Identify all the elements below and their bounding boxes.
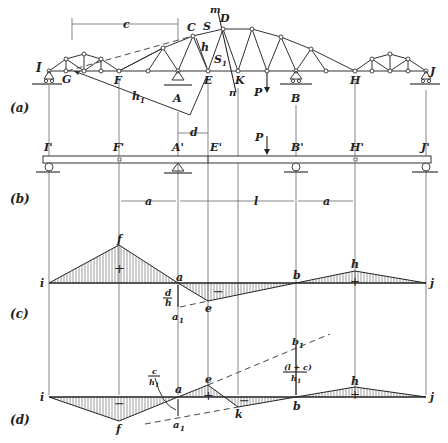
svg-text:a: a — [145, 195, 152, 208]
svg-text:(d): (d) — [10, 413, 30, 427]
svg-text:−: − — [239, 393, 250, 408]
svg-text:f: f — [115, 423, 123, 436]
il-S1-labels: i f a e k b h j a 1 b 1 c h 1 (l + c) h … — [10, 336, 434, 436]
svg-text:l: l — [254, 195, 258, 208]
influence-line-S-panel-c — [49, 245, 426, 307]
svg-text:I: I — [35, 61, 42, 75]
svg-text:a: a — [175, 383, 182, 396]
svg-text:A': A' — [171, 141, 184, 154]
svg-text:E: E — [203, 74, 213, 87]
roller-I — [45, 163, 53, 171]
svg-text:P: P — [254, 131, 264, 144]
svg-text:1: 1 — [180, 424, 185, 433]
svg-text:(l + c): (l + c) — [284, 362, 312, 372]
svg-text:j: j — [428, 391, 434, 404]
truss-panel-a — [32, 12, 440, 133]
svg-text:h: h — [201, 41, 209, 54]
svg-text:B: B — [290, 92, 300, 105]
beam-labels: I' F' A' E' P B' H' J' a l a (b) — [10, 131, 430, 208]
svg-text:1: 1 — [297, 377, 301, 384]
svg-text:(a): (a) — [10, 101, 29, 115]
roller-B — [292, 163, 300, 171]
svg-text:b: b — [293, 269, 301, 282]
svg-text:c: c — [123, 18, 130, 31]
svg-text:1: 1 — [222, 59, 227, 68]
svg-text:B': B' — [290, 141, 304, 154]
svg-text:h: h — [132, 90, 140, 103]
svg-text:d: d — [190, 126, 198, 139]
svg-text:S: S — [203, 20, 211, 33]
svg-text:P: P — [253, 86, 263, 99]
top-chord — [119, 29, 355, 71]
beam — [43, 156, 431, 163]
svg-text:H: H — [349, 74, 361, 87]
svg-text:j: j — [428, 277, 434, 290]
truss-nodes — [47, 27, 428, 73]
svg-text:a: a — [323, 195, 330, 208]
svg-text:k: k — [235, 408, 243, 421]
svg-text:−: − — [114, 396, 125, 411]
svg-text:F: F — [113, 74, 123, 87]
svg-text:(b): (b) — [10, 192, 30, 206]
diagram-canvas: I G F A C S m D h S 1 E K n P B H J h 1 … — [0, 0, 448, 443]
svg-text:+: + — [203, 388, 214, 403]
svg-text:+: + — [350, 275, 360, 289]
svg-text:F': F' — [112, 141, 124, 154]
svg-text:h: h — [351, 375, 359, 388]
svg-text:1: 1 — [140, 96, 145, 105]
svg-text:S: S — [214, 53, 222, 66]
svg-text:1: 1 — [179, 316, 184, 325]
svg-text:1: 1 — [299, 341, 304, 350]
svg-text:D: D — [219, 12, 230, 25]
svg-text:f: f — [116, 233, 124, 246]
svg-text:J': J' — [419, 141, 430, 154]
svg-text:J: J — [428, 65, 436, 78]
support-J — [410, 71, 440, 84]
svg-text:h: h — [351, 258, 359, 271]
svg-text:a: a — [173, 419, 179, 430]
svg-text:a: a — [172, 311, 178, 322]
svg-text:K: K — [234, 74, 245, 87]
projection-lines — [49, 78, 426, 395]
svg-text:+: + — [350, 388, 360, 402]
svg-text:H': H' — [349, 141, 364, 154]
svg-text:C: C — [187, 21, 196, 34]
svg-text:c: c — [152, 366, 157, 376]
truss-influence-line-figure: I G F A C S m D h S 1 E K n P B H J h 1 … — [0, 0, 448, 443]
svg-text:E': E' — [209, 141, 222, 154]
svg-text:+: + — [114, 261, 125, 276]
svg-text:b: b — [293, 400, 301, 413]
svg-text:h: h — [165, 298, 172, 308]
svg-text:i: i — [40, 391, 44, 404]
roller-J — [422, 163, 430, 171]
svg-text:A: A — [172, 92, 182, 105]
svg-text:b: b — [292, 336, 299, 347]
svg-text:d: d — [165, 288, 172, 298]
svg-text:i: i — [40, 277, 44, 290]
svg-text:(c): (c) — [10, 307, 29, 321]
svg-text:G: G — [62, 73, 71, 86]
svg-text:a: a — [176, 271, 183, 284]
svg-text:1: 1 — [155, 381, 159, 388]
svg-text:m: m — [210, 4, 221, 15]
svg-text:e: e — [205, 373, 212, 386]
svg-text:I': I' — [43, 141, 53, 154]
svg-text:−: − — [213, 284, 224, 299]
beam-panel-b — [36, 136, 438, 201]
svg-text:e: e — [205, 302, 212, 315]
hinge-H — [354, 158, 357, 161]
svg-text:n: n — [229, 87, 236, 98]
hinge-F — [118, 158, 121, 161]
